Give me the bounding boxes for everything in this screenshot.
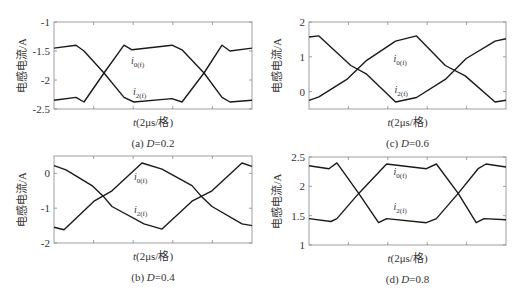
y-tick-label: 1.5 (291, 210, 305, 222)
series-line-i0f (54, 45, 252, 102)
y-tick-label: 1 (300, 239, 306, 251)
y-tick-label: -1 (41, 16, 50, 28)
plot-frame (54, 22, 252, 109)
x-axis-label: t(2μs/格) (133, 249, 173, 263)
y-axis-label: 电感电流/A (270, 173, 283, 228)
y-axis-label: 电感电流/A (15, 38, 28, 93)
y-tick-label: 2 (300, 16, 306, 28)
y-tick-label: 0 (45, 167, 51, 179)
figure: -1-1.5-2-2.5i0(f)i2(f)电感电流/At(2μs/格)(a) … (0, 0, 523, 299)
chart-panel-b: 0-1-2i0(f)i2(f)电感电流/At(2μs/格)(b) D=0.4 (15, 156, 252, 284)
y-tick-label: 2 (300, 180, 306, 192)
y-tick-label: 1 (300, 51, 306, 63)
curve-label: i2(f) (133, 86, 147, 100)
series-line-i0f (309, 163, 506, 223)
plot-frame (54, 156, 252, 243)
series-line-i0f (54, 163, 252, 230)
series-line-i2f (309, 164, 506, 223)
y-tick-label: -2 (41, 74, 50, 86)
series-line-i2f (54, 45, 252, 102)
series-line-i2f (54, 163, 252, 229)
chart-panel-a: -1-1.5-2-2.5i0(f)i2(f)电感电流/At(2μs/格)(a) … (15, 16, 252, 150)
y-axis-label: 电感电流/A (270, 38, 283, 93)
curve-label: i0(f) (394, 53, 408, 67)
panel-caption: (b) D=0.4 (131, 271, 175, 284)
curve-label: i0(f) (394, 166, 408, 180)
curve-label: i0(f) (134, 171, 148, 185)
chart-panel-d: 2.521.51i0(f)i2(f)电感电流/At(2μs/格)(d) D=0.… (270, 151, 506, 286)
y-tick-label: 0 (300, 86, 306, 98)
x-axis-label: t(2μs/格) (387, 251, 427, 265)
panel-caption: (d) D=0.8 (386, 273, 430, 286)
y-tick-label: 2.5 (291, 151, 305, 163)
curve-label: i2(f) (134, 204, 148, 218)
curve-label: i2(f) (394, 201, 408, 215)
y-tick-label: -2 (41, 237, 50, 249)
y-tick-label: -2.5 (33, 103, 51, 115)
curve-label: i0(f) (131, 55, 145, 69)
x-axis-label: t(2μs/格) (387, 115, 427, 129)
x-axis-label: t(2μs/格) (133, 115, 173, 129)
y-tick-label: -1.5 (33, 45, 51, 57)
y-axis-label: 电感电流/A (15, 172, 28, 227)
panel-caption: (c) D=0.6 (386, 137, 429, 150)
chart-panel-c: 210i0(f)i2(f)电感电流/At(2μs/格)(c) D=0.6 (270, 16, 506, 150)
panel-caption: (a) D=0.2 (132, 137, 175, 150)
curve-label: i2(f) (395, 84, 409, 98)
y-tick-label: -1 (41, 202, 50, 214)
